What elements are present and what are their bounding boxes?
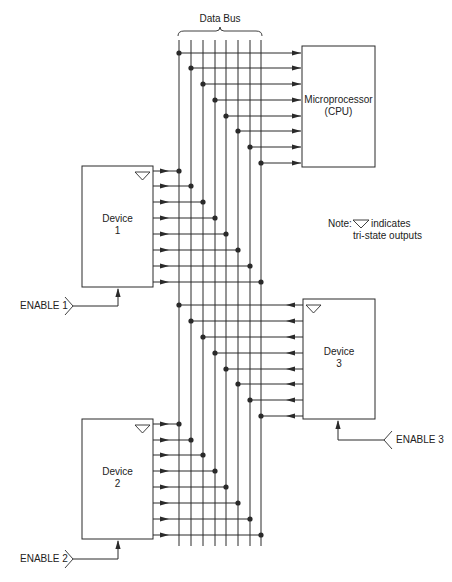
note-suffix: indicates [371,218,410,230]
arrow-left-icon [286,413,295,418]
junction-dot [212,350,217,355]
arrow-up-icon [115,540,120,549]
arrow-right-icon [160,532,169,537]
arrow-right-icon [292,50,301,55]
junction-dot [235,381,240,386]
junction-dot [212,215,217,220]
arrow-right-icon [160,263,169,268]
arrow-left-icon [286,302,295,307]
note-triangle-icon [353,220,369,228]
arrow-right-icon [160,421,169,426]
junction-dot [258,279,263,284]
arrow-up-icon [335,420,340,429]
arrow-left-icon [286,318,295,323]
arrow-right-icon [160,500,169,505]
junction-dot [200,334,205,339]
junction-dot [200,81,205,86]
junction-dot [188,318,193,323]
arrow-left-icon [286,397,295,402]
junction-dot [223,231,228,236]
note-line2: tri-state outputs [353,230,422,242]
junction-dot [188,183,193,188]
arrow-right-icon [160,199,169,204]
junction-dot [176,50,181,55]
junction-dot [223,484,228,489]
junction-dot [176,168,181,173]
device-2-number: 2 [82,478,153,490]
junction-dot [235,128,240,133]
junction-dot [188,437,193,442]
junction-dot [223,113,228,118]
device-3-label: Device 3 [303,346,375,370]
arrow-left-icon [286,334,295,339]
device-2-name: Device [82,466,153,478]
arrow-left-icon [286,350,295,355]
arrow-right-icon [160,468,169,473]
device-1-label: Device 1 [82,213,153,237]
arrow-right-icon [160,231,169,236]
note-prefix: Note: [328,218,352,230]
junction-dot [247,397,252,402]
junction-dot [235,247,240,252]
junction-dot [176,421,181,426]
junction-dot [212,97,217,102]
arrow-right-icon [160,484,169,489]
junction-dot [223,366,228,371]
arrow-right-icon [160,452,169,457]
arrow-right-icon [160,183,169,188]
cpu-label: Microprocessor (CPU) [302,94,375,118]
arrow-right-icon [292,113,301,118]
arrow-right-icon [292,97,301,102]
junction-dot [258,413,263,418]
arrow-left-icon [286,381,295,386]
junction-dot [247,263,252,268]
arrow-right-icon [160,215,169,220]
arrow-right-icon [292,65,301,70]
junction-dot [188,65,193,70]
arrow-right-icon [292,160,301,165]
arrow-up-icon [115,288,120,297]
arrow-right-icon [160,516,169,521]
arrow-right-icon [292,81,301,86]
enable-1-label: ENABLE 1 [20,300,68,312]
enable-2-label: ENABLE 2 [20,553,68,565]
junction-dot [247,516,252,521]
device-2-label: Device 2 [82,466,153,490]
enable-3-label: ENABLE 3 [396,434,444,446]
junction-dot [200,452,205,457]
cpu-name: Microprocessor [302,94,375,106]
device-3-name: Device [303,346,375,358]
device-1-name: Device [82,213,153,225]
arrow-left-icon [286,366,295,371]
junction-dot [247,144,252,149]
arrow-right-icon [292,128,301,133]
cpu-subname: (CPU) [302,106,375,118]
arrow-right-icon [292,144,301,149]
arrow-right-icon [160,247,169,252]
junction-dot [258,160,263,165]
device-3-number: 3 [303,358,375,370]
data-bus-label: Data Bus [190,13,250,25]
data-bus-brace [178,27,262,36]
junction-dot [200,199,205,204]
arrow-right-icon [160,279,169,284]
junction-dot [212,468,217,473]
arrow-right-icon [160,168,169,173]
arrow-right-icon [160,437,169,442]
junction-dot [235,500,240,505]
enable-chevron-icon [384,431,392,449]
junction-dot [176,302,181,307]
bus-diagram [0,0,452,582]
device-1-number: 1 [82,225,153,237]
junction-dot [258,532,263,537]
